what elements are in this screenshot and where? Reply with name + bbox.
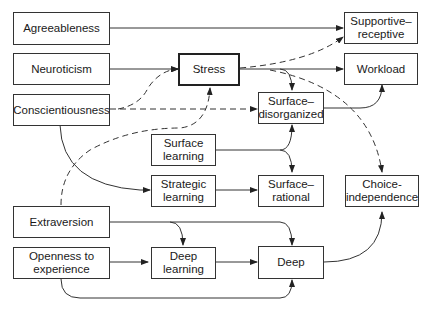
node-deep: Deep (258, 246, 324, 279)
node-supportive-receptive: Supportive– receptive (344, 12, 418, 44)
edge-extra-deeplearn (110, 222, 183, 245)
node-label: Stress (193, 63, 226, 76)
node-agreeableness: Agreeableness (13, 12, 110, 45)
edge-open-deep (61, 279, 292, 298)
node-openness: Openness to experience (13, 247, 110, 279)
node-stress: Stress (178, 53, 240, 86)
node-label: Strategic learning (161, 178, 206, 204)
edge-surfdis-workload (324, 85, 382, 108)
node-label: Choice- independence (346, 178, 418, 204)
node-label: Deep learning (163, 250, 204, 276)
node-label: Workload (357, 63, 405, 76)
node-extraversion: Extraversion (13, 206, 110, 238)
node-label: Neuroticism (31, 63, 92, 76)
edge-consc-stress (118, 69, 178, 109)
node-conscientiousness: Conscientiousness (13, 94, 110, 126)
node-deep-learning: Deep learning (151, 247, 216, 279)
node-choice-independence: Choice- independence (345, 175, 419, 207)
node-label: Conscientiousness (13, 104, 110, 117)
node-label: Surface– rational (268, 178, 314, 204)
node-label: Openness to experience (29, 250, 94, 276)
edge-deep-choice (324, 212, 382, 262)
node-label: Supportive– receptive (350, 15, 411, 41)
node-surface-rational: Surface– rational (258, 175, 324, 207)
node-surface-learning: Surface learning (151, 134, 216, 166)
edge-stress-supportive (240, 37, 343, 68)
node-neuroticism: Neuroticism (13, 53, 110, 85)
edge-surflearn-surfrat (280, 150, 292, 172)
node-workload: Workload (344, 53, 418, 85)
node-label: Surface learning (163, 137, 204, 163)
node-label: Extraversion (30, 216, 94, 229)
node-label: Agreeableness (23, 22, 100, 35)
node-label: Surface– disorganized (258, 95, 323, 121)
node-label: Deep (277, 256, 305, 269)
node-strategic-learning: Strategic learning (151, 175, 216, 207)
edge-extra-deep (170, 222, 292, 245)
edge-consc-strategic (60, 125, 150, 190)
node-surface-disorganized: Surface– disorganized (258, 92, 324, 124)
edge-surflearn-surfdis (216, 125, 292, 150)
